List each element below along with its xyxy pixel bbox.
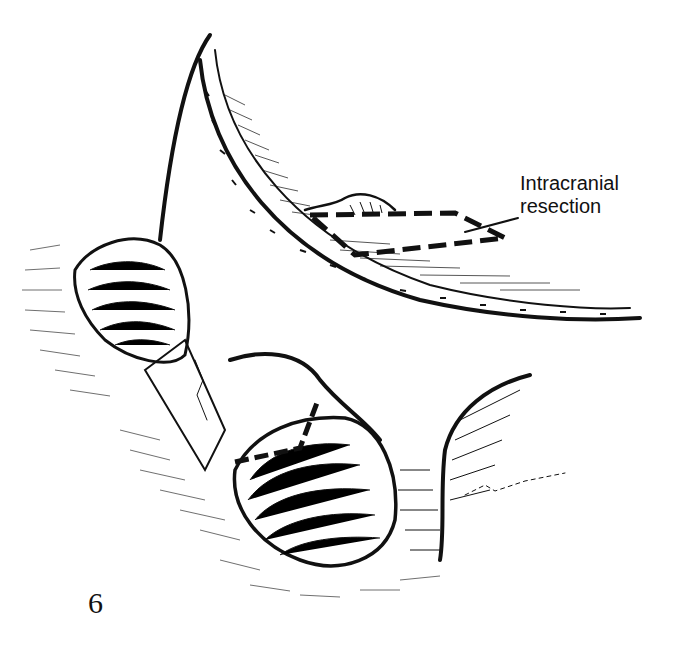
intracranial-resection-label: Intracranial resection — [520, 172, 619, 218]
nose — [398, 375, 565, 560]
illustration-drawing — [0, 0, 678, 655]
figure-number: 6 — [88, 586, 103, 620]
bone-strip — [145, 340, 225, 470]
label-line-2: resection — [520, 195, 619, 218]
eye-globe — [230, 354, 396, 566]
upper-eye-region — [22, 239, 189, 396]
surgical-illustration: Intracranial resection 6 — [0, 0, 678, 655]
resection-outline — [310, 213, 505, 255]
label-line-1: Intracranial — [520, 172, 619, 195]
